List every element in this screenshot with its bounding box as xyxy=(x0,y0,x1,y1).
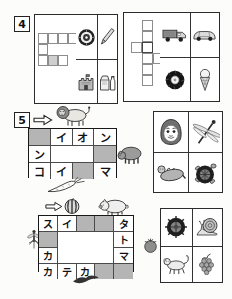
castle-icon xyxy=(76,60,97,103)
ice-cream-icon xyxy=(191,58,220,101)
picture-cell xyxy=(76,15,97,59)
grid-cell-shaded xyxy=(94,146,116,163)
watermelon-icon xyxy=(64,198,80,214)
car-icon xyxy=(191,13,220,57)
picture-cell xyxy=(76,59,97,103)
grid-cell xyxy=(38,55,48,66)
grapes-icon xyxy=(193,247,223,283)
pig-icon xyxy=(98,198,130,215)
dragonfly-icon xyxy=(189,112,222,152)
grid-cell xyxy=(58,55,68,66)
worksheet-page: 4 xyxy=(0,0,232,299)
monkey-icon xyxy=(161,247,192,283)
picture-cell xyxy=(160,57,190,101)
daruma-icon xyxy=(154,112,188,152)
puzzle4-box xyxy=(34,14,118,104)
letter-cell: タ xyxy=(114,216,133,232)
picture-cell xyxy=(97,59,118,103)
grid-cell xyxy=(142,31,153,42)
bear-icon xyxy=(117,143,143,165)
picture-cell xyxy=(192,209,223,246)
letter-cell: マ xyxy=(114,248,133,264)
picture-cell xyxy=(190,57,220,101)
picture-cell xyxy=(188,152,222,192)
puzzle6-grid: ス イ タ ト カ マ カ テ カ xyxy=(38,215,134,272)
snail-icon xyxy=(193,209,223,246)
picture-cell xyxy=(192,246,223,283)
milk-carton-icon xyxy=(98,60,118,103)
truck-icon xyxy=(160,13,190,57)
grid-cell-shaded xyxy=(39,232,58,248)
dartboard-icon xyxy=(76,15,97,59)
picture-cell xyxy=(188,112,222,152)
letter-cell: ス xyxy=(39,216,58,232)
puzzle5-answer-pictures xyxy=(154,112,222,192)
puzzle5-grid: イ オ ン ン コ イ マ xyxy=(28,128,117,178)
grid-cell xyxy=(131,42,142,53)
pencil-icon xyxy=(98,15,118,59)
grid-cell xyxy=(142,64,153,75)
picture-cell xyxy=(161,246,192,283)
tire-icon xyxy=(160,58,190,101)
puzzle-number-4: 4 xyxy=(14,16,30,32)
sea-otter-icon xyxy=(154,153,188,192)
grid-cell xyxy=(48,33,58,44)
bird-icon xyxy=(72,274,100,285)
grid-cell-shaded xyxy=(48,55,58,66)
puzzle4-answer-box xyxy=(123,12,220,102)
grid-cell-bold xyxy=(142,42,153,53)
letter-cell: ト xyxy=(114,232,133,248)
open-cell xyxy=(51,146,95,163)
letter-cell: カ xyxy=(39,248,58,264)
daikon-icon xyxy=(46,177,88,195)
arrow-icon xyxy=(33,114,53,126)
puzzle6-answer-box xyxy=(160,208,223,283)
puzzle4-answer-pictures xyxy=(160,13,219,101)
arrow-icon xyxy=(45,201,63,212)
grid-cell-shaded xyxy=(114,264,133,279)
grid-cell xyxy=(142,53,153,64)
puzzle-number-4-label: 4 xyxy=(18,18,26,31)
lion-icon xyxy=(55,103,91,127)
letter-cell: ン xyxy=(29,146,51,163)
letter-cell: ン xyxy=(94,129,116,146)
letter-cell: マ xyxy=(94,163,116,179)
grid-cell-shaded xyxy=(77,216,96,232)
letter-cell: カ xyxy=(39,264,58,279)
puzzle5-answer-box xyxy=(153,111,223,193)
puzzle-number-5: 5 xyxy=(14,112,30,128)
turtle-icon xyxy=(189,153,222,192)
turtle-top-icon xyxy=(161,209,192,246)
puzzle6-answer-pictures xyxy=(161,209,222,282)
puzzle-number-5-label: 5 xyxy=(18,114,26,127)
picture-cell xyxy=(160,13,190,57)
tomato-icon xyxy=(142,238,159,253)
puzzle4-pictures xyxy=(76,15,117,103)
grid-cell xyxy=(38,33,48,44)
grid-cell xyxy=(142,75,153,86)
picture-cell xyxy=(97,15,118,59)
grid-cell xyxy=(38,44,48,55)
letter-cell: イ xyxy=(51,129,73,146)
picture-cell xyxy=(154,152,188,192)
letter-cell: イ xyxy=(58,216,77,232)
puzzle4-outline-grid xyxy=(38,33,78,66)
letter-cell: オ xyxy=(73,129,95,146)
open-cell xyxy=(58,232,114,264)
grid-cell xyxy=(58,33,68,44)
picture-cell xyxy=(190,13,220,57)
grid-cell-shaded xyxy=(29,129,51,146)
grid-cell xyxy=(142,20,153,31)
grid-cell-shaded xyxy=(95,216,114,232)
picture-cell xyxy=(161,209,192,246)
picture-cell xyxy=(154,112,188,152)
